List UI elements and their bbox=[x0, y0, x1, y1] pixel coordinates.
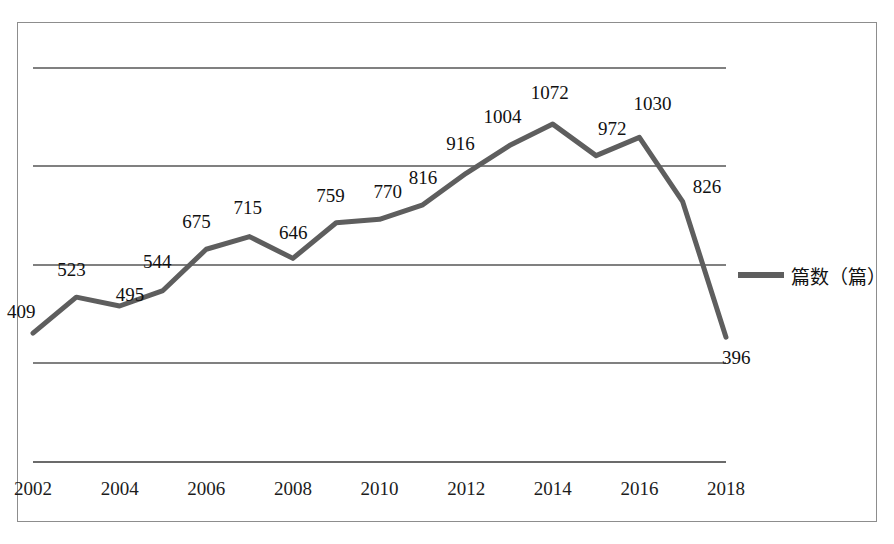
data-point-label: 916 bbox=[446, 133, 475, 155]
data-point-label: 523 bbox=[57, 259, 86, 281]
data-point-label: 675 bbox=[182, 211, 211, 233]
x-tick-label: 2006 bbox=[176, 478, 236, 500]
x-tick-label: 2002 bbox=[3, 478, 63, 500]
data-point-label: 715 bbox=[234, 197, 263, 219]
x-tick-label: 2010 bbox=[350, 478, 410, 500]
data-point-label: 826 bbox=[693, 176, 722, 198]
legend[interactable]: 篇数（篇） bbox=[738, 262, 886, 288]
x-tick-label: 2004 bbox=[90, 478, 150, 500]
chart-figure: 200220042006200820102012201420162018 409… bbox=[0, 0, 894, 544]
data-point-label: 816 bbox=[409, 167, 438, 189]
x-tick-label: 2014 bbox=[523, 478, 583, 500]
data-point-label: 646 bbox=[279, 222, 308, 244]
data-point-label: 1072 bbox=[531, 82, 569, 104]
legend-swatch-icon bbox=[738, 272, 784, 278]
data-point-label: 1004 bbox=[483, 106, 521, 128]
x-tick-label: 2016 bbox=[609, 478, 669, 500]
data-point-label: 409 bbox=[7, 301, 36, 323]
data-point-label: 544 bbox=[143, 251, 172, 273]
data-point-label: 759 bbox=[316, 185, 345, 207]
x-tick-label: 2008 bbox=[263, 478, 323, 500]
legend-label: 篇数（篇） bbox=[791, 262, 886, 289]
data-point-label: 495 bbox=[116, 284, 145, 306]
x-tick-label: 2018 bbox=[696, 478, 756, 500]
data-point-label: 770 bbox=[374, 181, 403, 203]
x-tick-label: 2012 bbox=[436, 478, 496, 500]
data-point-label: 396 bbox=[722, 347, 751, 369]
data-point-label: 972 bbox=[598, 118, 627, 140]
data-point-label: 1030 bbox=[633, 93, 671, 115]
